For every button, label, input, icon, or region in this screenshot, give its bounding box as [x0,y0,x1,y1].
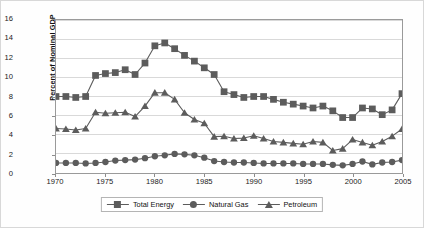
x-tick-mark [55,174,56,177]
legend-item-triangle: Petroleum [257,200,317,209]
x-tick-mark [403,174,404,177]
x-tick-mark [353,174,354,177]
x-tick-mark [204,174,205,177]
x-tick-mark [105,174,106,177]
legend-marker-triangle-icon [257,200,279,209]
plot-area [55,19,403,174]
x-tick: 1975 [96,177,113,186]
x-tick: 1970 [47,177,64,186]
legend-marker-square-icon [107,200,129,209]
legend-label: Petroleum [281,200,317,209]
legend-item-circle: Natural Gas [183,200,248,209]
legend-marker-circle-icon [183,200,205,209]
legend-item-square: Total Energy [107,200,174,209]
legend-label: Total Energy [131,200,174,209]
x-tick-mark [304,174,305,177]
x-tick: 2005 [395,177,412,186]
x-tick-mark [254,174,255,177]
chart-legend: Total EnergyNatural GasPetroleum [101,197,323,212]
x-tick: 1985 [196,177,213,186]
x-tick: 1995 [295,177,312,186]
chart-figure: Percent of Nominal GDP 0246810121416 197… [0,0,424,228]
x-tick: 1980 [146,177,163,186]
x-tick: 1990 [245,177,262,186]
x-tick-mark [154,174,155,177]
legend-label: Natural Gas [207,200,248,209]
x-tick: 2000 [345,177,362,186]
series-lines [56,20,402,173]
